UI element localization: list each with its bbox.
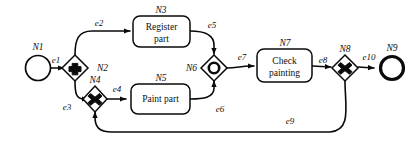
- edge-label-e4: e4: [113, 84, 122, 94]
- node-label-n8: N8: [338, 44, 350, 54]
- edge-label-e10: e10: [363, 52, 376, 62]
- edge-label-e9: e9: [286, 116, 295, 126]
- xor-gateway-n8[interactable]: [332, 55, 358, 81]
- task-n5-line1: Paint part: [142, 94, 179, 104]
- flow-e5: [190, 31, 214, 54]
- edge-label-e8: e8: [319, 55, 328, 65]
- edge-label-e7: e7: [238, 52, 247, 62]
- bpmn-diagram-canvas: N1 N2 N3 N4 N5 N6 N7 N8 N9 Register part…: [0, 0, 416, 142]
- flow-e7: [227, 66, 254, 68]
- flow-e8: [312, 66, 331, 67]
- node-label-n2: N2: [96, 63, 108, 73]
- node-label-n4: N4: [88, 75, 100, 85]
- and-gateway-n2[interactable]: [62, 55, 88, 81]
- or-gateway-n6[interactable]: [201, 55, 227, 81]
- node-label-n6: N6: [185, 63, 197, 73]
- edge-label-e6: e6: [216, 104, 225, 114]
- flow-e10: [358, 67, 374, 68]
- start-event-n1[interactable]: [26, 56, 51, 81]
- bpmn-diagram-svg: N1 N2 N3 N4 N5 N6 N7 N8 N9 Register part…: [0, 0, 416, 142]
- task-n3-line1: Register: [146, 22, 178, 32]
- xor-gateway-n4[interactable]: [83, 86, 107, 112]
- edge-label-e1: e1: [52, 55, 61, 65]
- task-n7-line1: Check: [272, 56, 297, 66]
- node-label-n9: N9: [385, 43, 397, 53]
- edge-label-e5: e5: [208, 20, 217, 30]
- task-n3-line2: part: [154, 34, 169, 44]
- flow-e6: [190, 81, 214, 99]
- edge-label-e2: e2: [95, 18, 104, 28]
- flow-e2: [75, 31, 130, 55]
- node-label-n3: N3: [154, 5, 166, 15]
- end-event-n9[interactable]: [381, 57, 404, 80]
- edge-label-e3: e3: [63, 102, 72, 112]
- node-label-n5: N5: [154, 73, 166, 83]
- task-n7-line2: painting: [269, 68, 300, 78]
- node-label-n7: N7: [278, 38, 291, 48]
- node-label-n1: N1: [31, 42, 43, 52]
